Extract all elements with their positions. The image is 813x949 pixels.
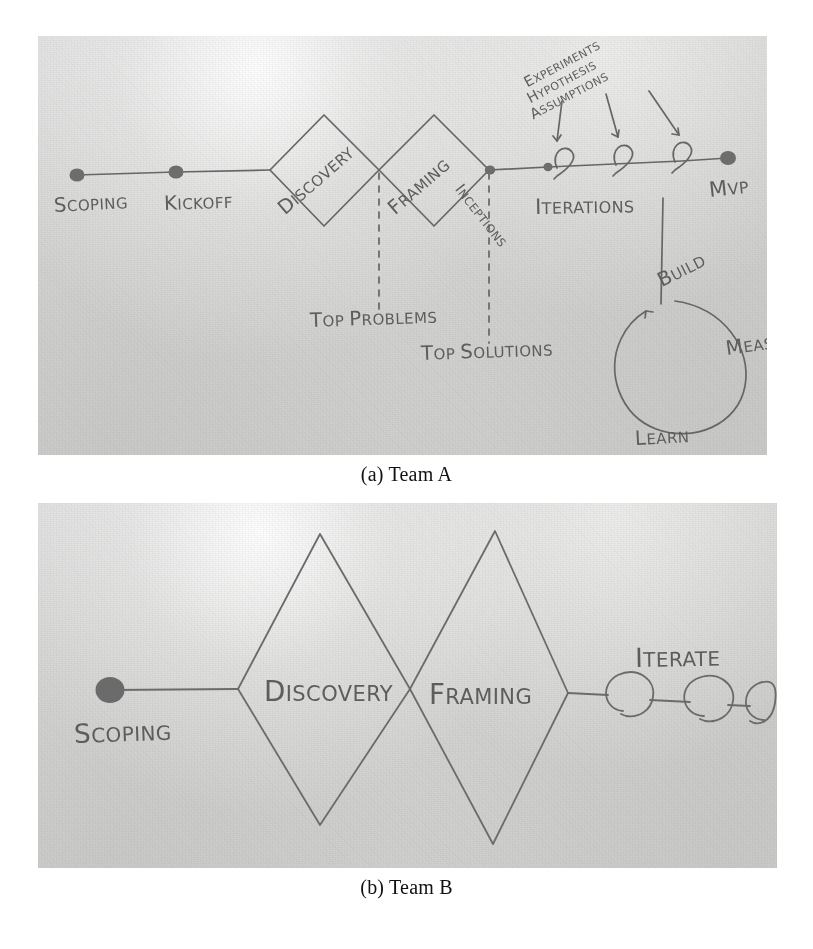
callout-arrow-assumptions	[649, 91, 679, 135]
label-iterate-b: ITERATE	[635, 644, 721, 672]
label-mvp-a: MVP	[708, 175, 750, 200]
build-measure-learn-arrowhead	[645, 311, 653, 318]
label-learn-a: LEARN	[634, 426, 689, 449]
timeline-segment-iterate-1	[568, 693, 608, 695]
figure-caption-team-b: (b) Team B	[0, 876, 813, 899]
label-framing-b: FRAMING	[429, 681, 532, 709]
dot-inceptions-junction	[485, 165, 495, 174]
label-kickoff-a: KICKOFF	[164, 192, 233, 214]
timeline-segment-scoping	[110, 689, 238, 690]
dot-inceptions	[543, 163, 552, 171]
label-top-problems-a: TOP PROBLEMS	[310, 307, 438, 331]
build-measure-learn-circle	[615, 301, 746, 434]
dot-mvp	[720, 151, 736, 165]
iteration-loop-2	[613, 145, 633, 176]
iterate-circle-1	[606, 672, 653, 716]
label-scoping-a: SCOPING	[53, 192, 128, 216]
sketch-strokes-team-b	[38, 503, 777, 868]
label-discovery-b: DISCOVERY	[264, 678, 393, 706]
photo-panel-team-b: SCOPING DISCOVERY FRAMING ITERATE	[38, 503, 777, 868]
sketch-strokes-team-a	[38, 36, 767, 455]
dot-scoping	[70, 168, 85, 181]
label-iterations-a: ITERATIONS	[535, 194, 635, 217]
timeline-segment-end	[489, 158, 728, 170]
photo-panel-team-a: SCOPING KICKOFF DISCOVERY FRAMING INCEPT…	[38, 36, 767, 455]
dot-scoping-b	[96, 677, 125, 703]
callout-arrow-hypothesis	[606, 94, 618, 137]
dot-kickoff	[169, 165, 184, 178]
iterate-circle-2	[684, 676, 733, 722]
iterate-circle-3	[746, 682, 776, 724]
iteration-loop-1	[554, 148, 574, 179]
label-scoping-b: SCOPING	[74, 718, 173, 748]
iteration-loop-3	[672, 142, 692, 173]
figure-caption-team-a: (a) Team A	[0, 463, 813, 486]
